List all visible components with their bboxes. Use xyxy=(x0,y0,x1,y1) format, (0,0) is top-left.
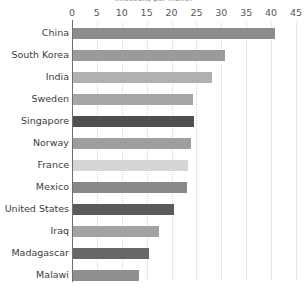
category-label: Madagascar xyxy=(0,242,69,264)
bar-row: Madagascar xyxy=(0,242,307,264)
bar xyxy=(73,270,139,281)
bar-row: China xyxy=(0,22,307,44)
category-label: France xyxy=(0,154,69,176)
category-label: India xyxy=(0,66,69,88)
bar xyxy=(73,50,225,61)
bar-row: Norway xyxy=(0,132,307,154)
bar-row: Iraq xyxy=(0,220,307,242)
bar xyxy=(73,160,188,171)
category-label: Iraq xyxy=(0,220,69,242)
bar xyxy=(73,28,275,39)
bar-row: United States xyxy=(0,198,307,220)
bar xyxy=(73,72,212,83)
category-label: United States xyxy=(0,198,69,220)
bar-rows: ChinaSouth KoreaIndiaSwedenSingaporeNorw… xyxy=(0,0,307,292)
category-label: South Korea xyxy=(0,44,69,66)
bar xyxy=(73,204,174,215)
category-label: Norway xyxy=(0,132,69,154)
bar-row: Malawi xyxy=(0,264,307,286)
category-label: Mexico xyxy=(0,176,69,198)
bar-row: France xyxy=(0,154,307,176)
bar-chart: Infections per month 051015202530354045 … xyxy=(0,0,307,292)
bar xyxy=(73,138,191,149)
bar-row: Sweden xyxy=(0,88,307,110)
bar-row: Mexico xyxy=(0,176,307,198)
bar xyxy=(73,248,149,259)
bar xyxy=(73,116,194,127)
category-label: Malawi xyxy=(0,264,69,286)
bar xyxy=(73,94,193,105)
bar xyxy=(73,182,187,193)
bar-row: Singapore xyxy=(0,110,307,132)
bar xyxy=(73,226,159,237)
bar-row: India xyxy=(0,66,307,88)
category-label: China xyxy=(0,22,69,44)
category-label: Sweden xyxy=(0,88,69,110)
category-label: Singapore xyxy=(0,110,69,132)
bar-row: South Korea xyxy=(0,44,307,66)
